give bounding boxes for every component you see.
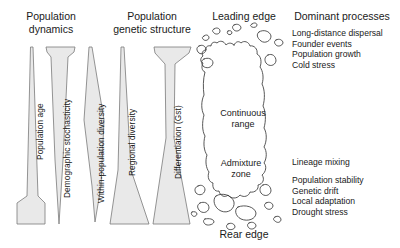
range-patch-leading-1 (213, 28, 221, 34)
range-wide-variation-figure: Population age Demographic stochasticity… (0, 0, 400, 248)
process-item: Cold stress (292, 60, 383, 71)
header-population-dynamics: Population dynamics (8, 10, 94, 35)
wedge-label-demographic-stochasticity: Demographic stochasticity (63, 99, 72, 198)
header-leading-edge: Leading edge (196, 10, 292, 23)
range-patch-rear-9 (204, 219, 215, 225)
process-item: Population stability (292, 175, 364, 186)
range-patch-rear-4 (236, 206, 256, 220)
range-patch-leading-2 (233, 24, 242, 31)
range-patch-leading-5 (275, 39, 284, 46)
range-patch-leading-10 (227, 31, 232, 35)
process-item: Genetic drift (292, 186, 364, 197)
header-population-genetic-structure: Population genetic structure (100, 10, 204, 35)
range-patch-leading-7 (197, 45, 206, 54)
range-patch-rear-3 (214, 194, 234, 212)
wedge-label-population-age: Population age (36, 103, 45, 160)
range-patch-rear-5 (260, 184, 271, 195)
process-list-admixture-zone: Lineage mixing (292, 157, 350, 168)
label-admixture-zone: Admixture zone (204, 158, 278, 180)
process-list-leading-edge: Long-distance dispersal Founder events P… (292, 28, 383, 70)
label-continuous-range: Continuous range (204, 108, 282, 130)
process-item: Local adaptation (292, 196, 364, 207)
header-dominant-processes: Dominant processes (288, 10, 396, 23)
label-rear-edge: Rear edge (196, 228, 292, 241)
process-item: Population growth (292, 49, 383, 60)
range-patch-leading-4 (257, 31, 271, 43)
range-patch-leading-3 (251, 23, 258, 27)
range-patch-rear-2 (198, 202, 209, 212)
range-patch-leading-9 (265, 54, 276, 65)
range-patch-rear-11 (191, 212, 197, 217)
range-patch-rear-10 (274, 216, 282, 222)
process-list-rear-edge: Population stability Genetic drift Local… (292, 175, 364, 217)
range-patch-rear-6 (265, 202, 274, 209)
wedge-label-regional-diversity: Regional diversity (128, 109, 137, 176)
process-item: Drought stress (292, 207, 364, 218)
range-patch-rear-1 (195, 185, 205, 194)
wedge-label-differentiation-gst: Differentiation (Gst) (174, 105, 183, 179)
wedge-label-within-population-diversity: Within-population diversity (97, 103, 106, 203)
range-patch-leading-6 (202, 35, 209, 40)
process-item: Long-distance dispersal (292, 28, 383, 39)
process-item: Lineage mixing (292, 157, 350, 168)
process-item: Founder events (292, 39, 383, 50)
